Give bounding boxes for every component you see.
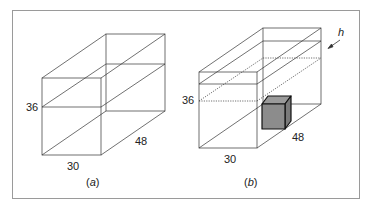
panel-a-caption: (a) [86,176,99,188]
h-arrow-icon [328,40,340,49]
cube-icon [262,96,291,129]
panel-a-height-label: 36 [26,101,38,113]
panel-b-tank [199,28,321,148]
panel-a-width-label: 30 [67,160,79,172]
panel-a-depth-label: 48 [135,135,147,147]
panel-b-depth-label: 48 [292,131,304,143]
panel-b-height-label: 36 [182,94,194,106]
panel-b-caption: (b) [244,176,257,188]
figure-canvas: 36 30 48 (a) h 36 30 48 (b) [0,0,371,209]
panel-b-rise-label: h [338,26,344,38]
panel-b-original-level [199,58,321,101]
panel-b-width-label: 30 [224,153,236,165]
